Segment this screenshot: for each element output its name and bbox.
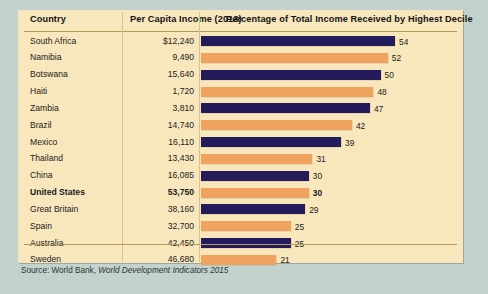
cell-country: Brazil xyxy=(30,120,52,130)
cell-country: Spain xyxy=(30,221,52,231)
bar xyxy=(201,204,305,214)
table-row: Haiti1,72048 xyxy=(18,84,463,101)
bar-cell: 39 xyxy=(201,134,459,151)
cell-per-capita-income: 1,720 xyxy=(122,86,194,96)
bar-cell: 25 xyxy=(201,218,459,235)
bar xyxy=(201,171,309,181)
bar-cell: 31 xyxy=(201,151,459,168)
bar xyxy=(201,188,309,198)
bottom-divider xyxy=(24,244,457,245)
bar-value-label: 30 xyxy=(313,188,322,198)
cell-country: Sweden xyxy=(30,254,61,264)
cell-per-capita-income: 14,740 xyxy=(122,120,194,130)
cell-country: China xyxy=(30,170,52,180)
bar-value-label: 50 xyxy=(385,70,394,80)
table-row: Great Britain38,16029 xyxy=(18,201,463,218)
column-header-per-capita-income: Per Capita Income (2013) xyxy=(130,14,242,24)
bar-value-label: 52 xyxy=(392,53,401,63)
source-prefix: Source: World Bank, xyxy=(21,266,98,275)
source-title: World Development Indicators 2015 xyxy=(98,266,228,275)
header-divider xyxy=(24,31,457,32)
column-header-percentage: Percentage of Total Income Received by H… xyxy=(226,14,473,24)
cell-per-capita-income: 38,160 xyxy=(122,204,194,214)
cell-per-capita-income: $12,240 xyxy=(122,36,194,46)
cell-country: United States xyxy=(30,187,85,197)
cell-country: Namibia xyxy=(30,52,62,62)
bar xyxy=(201,87,373,97)
bar xyxy=(201,36,395,46)
bar xyxy=(201,103,370,113)
bar-cell: 52 xyxy=(201,50,459,67)
bar-cell: 54 xyxy=(201,33,459,50)
income-distribution-figure: Country Per Capita Income (2013) Percent… xyxy=(0,0,488,294)
cell-per-capita-income: 53,750 xyxy=(122,187,194,197)
cell-country: Mexico xyxy=(30,137,57,147)
table-row: South Africa$12,24054 xyxy=(18,33,463,50)
bar xyxy=(201,70,381,80)
cell-country: Zambia xyxy=(30,103,59,113)
bar-cell: 29 xyxy=(201,201,459,218)
bar-value-label: 30 xyxy=(313,171,322,181)
table-row: Mexico16,11039 xyxy=(18,134,463,151)
bar xyxy=(201,120,352,130)
bar-value-label: 29 xyxy=(309,205,318,215)
bar-cell: 30 xyxy=(201,168,459,185)
cell-per-capita-income: 46,680 xyxy=(122,254,194,264)
bar xyxy=(201,137,341,147)
table-row: Namibia9,49052 xyxy=(18,50,463,67)
bar-value-label: 25 xyxy=(295,222,304,232)
cell-country: Thailand xyxy=(30,153,63,163)
cell-per-capita-income: 3,810 xyxy=(122,103,194,113)
chart-panel: Country Per Capita Income (2013) Percent… xyxy=(18,10,463,263)
bar xyxy=(201,255,276,265)
bar-value-label: 39 xyxy=(345,138,354,148)
table-row: China16,08530 xyxy=(18,168,463,185)
bar-value-label: 31 xyxy=(316,154,325,164)
bar-cell: 30 xyxy=(201,185,459,202)
bar-cell: 21 xyxy=(201,252,459,269)
bar-value-label: 48 xyxy=(377,87,386,97)
table-body: South Africa$12,24054Namibia9,49052Botsw… xyxy=(18,33,463,269)
column-header-country: Country xyxy=(30,14,66,24)
bar-cell: 42 xyxy=(201,117,459,134)
cell-per-capita-income: 15,640 xyxy=(122,69,194,79)
cell-country: Australia xyxy=(30,238,63,248)
source-note: Source: World Bank, World Development In… xyxy=(21,266,228,275)
cell-country: Great Britain xyxy=(30,204,78,214)
table-row: Brazil14,74042 xyxy=(18,117,463,134)
table-row: Spain32,70025 xyxy=(18,218,463,235)
table-row: United States53,75030 xyxy=(18,185,463,202)
cell-country: Haiti xyxy=(30,86,47,96)
bar-cell: 50 xyxy=(201,67,459,84)
bar xyxy=(201,53,388,63)
cell-per-capita-income: 42,450 xyxy=(122,238,194,248)
bar-value-label: 42 xyxy=(356,121,365,131)
table-row: Zambia3,81047 xyxy=(18,100,463,117)
bar-cell: 47 xyxy=(201,100,459,117)
table-row: Botswana15,64050 xyxy=(18,67,463,84)
cell-per-capita-income: 16,085 xyxy=(122,170,194,180)
bar xyxy=(201,221,291,231)
bar-value-label: 21 xyxy=(280,255,289,265)
table-header: Country Per Capita Income (2013) Percent… xyxy=(18,10,463,31)
cell-country: South Africa xyxy=(30,36,76,46)
cell-per-capita-income: 13,430 xyxy=(122,153,194,163)
cell-per-capita-income: 9,490 xyxy=(122,52,194,62)
bar xyxy=(201,154,312,164)
cell-per-capita-income: 32,700 xyxy=(122,221,194,231)
cell-country: Botswana xyxy=(30,69,68,79)
cell-per-capita-income: 16,110 xyxy=(122,137,194,147)
bar-value-label: 47 xyxy=(374,104,383,114)
bar-cell: 48 xyxy=(201,84,459,101)
bar-value-label: 54 xyxy=(399,37,408,47)
table-row: Thailand13,43031 xyxy=(18,151,463,168)
